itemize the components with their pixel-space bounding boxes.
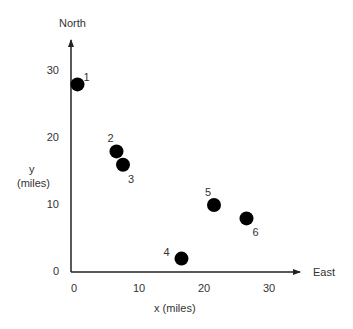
- point-label-3: 3: [128, 174, 134, 185]
- y-tick-label: 30: [29, 65, 59, 76]
- x-tick-label: 0: [59, 283, 89, 294]
- y-tick-label: 0: [29, 266, 59, 277]
- x-tick-label: 20: [189, 283, 219, 294]
- data-point-5: [207, 198, 221, 212]
- y-axis-label-line1: y: [29, 164, 35, 175]
- x-tick-label: 10: [124, 283, 154, 294]
- y-tick-label: 20: [29, 132, 59, 143]
- data-point-6: [240, 211, 254, 225]
- data-points: [71, 77, 254, 265]
- point-label-1: 1: [84, 72, 90, 83]
- plot-area: [0, 0, 353, 329]
- y-tick-label: 10: [29, 199, 59, 210]
- data-point-1: [71, 77, 85, 91]
- point-label-5: 5: [205, 187, 211, 198]
- point-label-4: 4: [164, 247, 170, 258]
- point-label-2: 2: [108, 133, 114, 144]
- x-tick-label: 30: [254, 283, 284, 294]
- x-axis-label: x (miles): [154, 303, 196, 314]
- y-axis-label-line2: (miles): [17, 178, 50, 189]
- data-point-2: [110, 144, 124, 158]
- x-axis-end-label: East: [313, 267, 335, 278]
- y-axis-end-label: North: [59, 18, 86, 29]
- data-point-4: [175, 252, 189, 266]
- scatter-chart: North East y (miles) x (miles) 010203001…: [0, 0, 353, 329]
- point-label-6: 6: [253, 227, 259, 238]
- data-point-3: [116, 158, 130, 172]
